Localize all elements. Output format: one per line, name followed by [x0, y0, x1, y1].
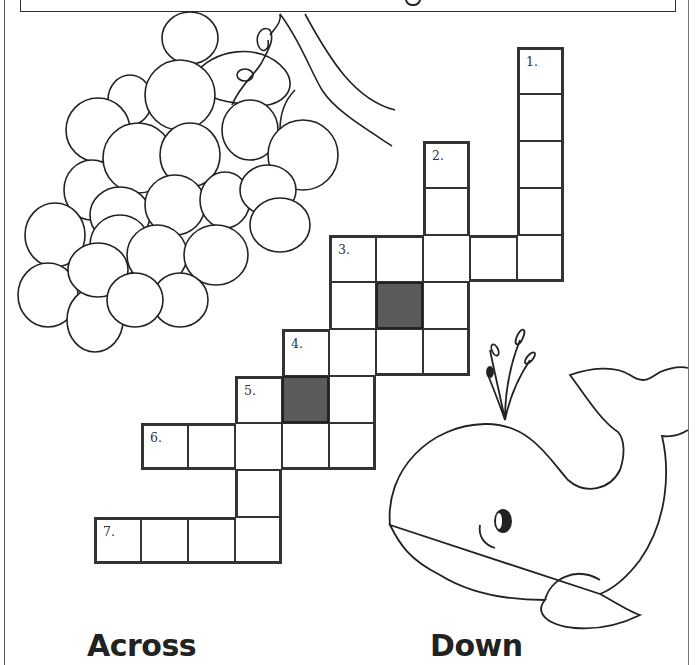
- crossword-cell[interactable]: 3.: [329, 235, 376, 282]
- page-border-left: [4, 0, 5, 665]
- crossword-cell[interactable]: [423, 235, 470, 282]
- crossword-cell[interactable]: [423, 329, 470, 376]
- clue-number: 4.: [291, 336, 303, 351]
- crossword-cell[interactable]: [282, 423, 329, 470]
- crossword-cell[interactable]: 4.: [282, 329, 329, 376]
- crossword-cell[interactable]: 6.: [141, 423, 188, 470]
- crossword-cell[interactable]: [517, 235, 564, 282]
- crossword-cell[interactable]: [423, 188, 470, 235]
- page-border-right: [688, 0, 689, 665]
- crossword-cell[interactable]: [329, 376, 376, 423]
- crossword-cell[interactable]: [141, 517, 188, 564]
- crossword-cell[interactable]: 1.: [517, 47, 564, 94]
- crossword-cell[interactable]: 7.: [94, 517, 141, 564]
- crossword-cell[interactable]: [423, 282, 470, 329]
- crossword-cell[interactable]: [235, 517, 282, 564]
- across-heading: Across: [87, 628, 196, 663]
- clue-number: 6.: [150, 430, 162, 445]
- clue-number: 5.: [244, 383, 256, 398]
- clue-number: 3.: [338, 242, 350, 257]
- crossword-cell[interactable]: [329, 282, 376, 329]
- crossword-cell[interactable]: [517, 141, 564, 188]
- crossword-cell[interactable]: [517, 94, 564, 141]
- crossword-cell[interactable]: 2.: [423, 141, 470, 188]
- crossword-cell[interactable]: [329, 423, 376, 470]
- crossword-cell[interactable]: [188, 517, 235, 564]
- crossword-cell[interactable]: [470, 235, 517, 282]
- crossword-cell[interactable]: [235, 470, 282, 517]
- crossword-cell[interactable]: [329, 329, 376, 376]
- crossword-block: [376, 282, 423, 329]
- crossword-cell[interactable]: [376, 329, 423, 376]
- clue-number: 7.: [103, 524, 115, 539]
- crossword-cell[interactable]: [517, 188, 564, 235]
- crossword-cell[interactable]: [376, 235, 423, 282]
- crossword-cell[interactable]: [188, 423, 235, 470]
- clue-number: 1.: [526, 54, 538, 69]
- down-heading: Down: [430, 628, 523, 663]
- clue-number: 2.: [432, 148, 444, 163]
- crossword-block: [282, 376, 329, 423]
- crossword-cell[interactable]: 5.: [235, 376, 282, 423]
- title-box: [20, 0, 676, 12]
- crossword-cell[interactable]: [235, 423, 282, 470]
